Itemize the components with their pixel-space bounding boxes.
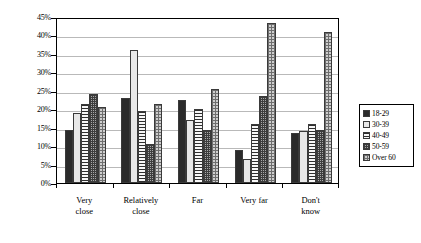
x-axis-category-label: Far	[169, 195, 226, 206]
legend-swatch-icon	[363, 132, 370, 139]
bar	[251, 124, 259, 183]
y-axis-tick-label: 45%	[37, 14, 51, 22]
bar	[138, 111, 146, 183]
legend-label: 18-29	[372, 110, 389, 118]
x-axis-tick-mark	[282, 184, 283, 188]
x-axis-tick-mark	[226, 184, 227, 188]
y-axis-tick-label: 35%	[37, 51, 51, 59]
legend-item: 30-39	[363, 119, 411, 130]
bar-group	[57, 19, 114, 183]
y-axis: 0%5%10%15%20%25%30%35%40%45%	[0, 0, 56, 190]
legend-item: 18-29	[363, 108, 411, 119]
bar	[243, 159, 251, 183]
legend-label: 40-49	[372, 132, 389, 140]
bar	[211, 89, 219, 183]
y-axis-tick-label: 40%	[37, 32, 51, 40]
bar	[178, 100, 186, 183]
y-axis-tick-label: 0%	[41, 180, 51, 188]
bar	[291, 133, 299, 183]
legend-swatch-icon	[363, 110, 370, 117]
x-axis-category-label: Relatively close	[113, 195, 170, 217]
bar	[98, 107, 106, 183]
bar	[81, 104, 89, 183]
bar	[324, 32, 332, 183]
bar	[194, 109, 202, 183]
bar-group	[283, 19, 340, 183]
x-axis-tick-mark	[113, 184, 114, 188]
y-axis-tick-label: 30%	[37, 69, 51, 77]
x-axis-tick-mark	[338, 184, 339, 188]
bar	[308, 124, 316, 183]
bar	[65, 130, 73, 183]
bar	[130, 50, 138, 183]
y-axis-tick-label: 20%	[37, 106, 51, 114]
legend-swatch-icon	[363, 143, 370, 150]
x-axis-category-label: Don't know	[282, 195, 339, 217]
bar	[299, 131, 307, 183]
bar	[316, 130, 324, 183]
bar	[259, 96, 267, 183]
plot-area	[56, 18, 339, 184]
x-axis: Very closeRelatively closeFarVery farDon…	[56, 184, 339, 236]
bar-series-container	[57, 19, 338, 183]
legend-item: 50-59	[363, 141, 411, 152]
legend-swatch-icon	[363, 121, 370, 128]
y-axis-tick-label: 10%	[37, 143, 51, 151]
x-axis-category-label: Very close	[56, 195, 113, 217]
bar	[186, 120, 194, 183]
legend-swatch-icon	[363, 154, 370, 161]
legend: 18-2930-3940-4950-59Over 60	[359, 104, 414, 167]
bar	[146, 144, 154, 183]
chart-page: 0%5%10%15%20%25%30%35%40%45% Very closeR…	[0, 0, 421, 243]
legend-label: 50-59	[372, 143, 389, 151]
bar	[267, 23, 275, 183]
bar	[203, 130, 211, 183]
y-axis-tick-label: 15%	[37, 125, 51, 133]
y-axis-tick-label: 5%	[41, 162, 51, 170]
x-axis-tick-mark	[169, 184, 170, 188]
bar-group	[170, 19, 227, 183]
x-axis-category-label: Very far	[226, 195, 283, 206]
bar	[89, 94, 97, 183]
legend-label: 30-39	[372, 121, 389, 129]
bar	[121, 98, 129, 183]
bar-group	[227, 19, 284, 183]
bar-group	[114, 19, 171, 183]
legend-item: 40-49	[363, 130, 411, 141]
bar	[73, 113, 81, 183]
bar	[235, 150, 243, 183]
legend-item: Over 60	[363, 152, 411, 163]
y-axis-tick-label: 25%	[37, 88, 51, 96]
x-axis-tick-mark	[56, 184, 57, 188]
legend-label: Over 60	[372, 154, 396, 162]
bar	[154, 104, 162, 183]
